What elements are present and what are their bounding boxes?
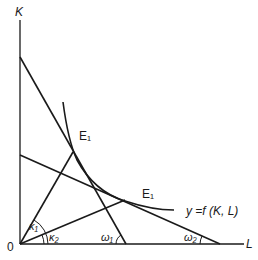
isoquant-label: y =f (K, L) [185, 204, 238, 218]
kappa2-label: κ₂ [49, 231, 60, 243]
k-axis-label: K [15, 5, 24, 19]
diagram-svg: K L 0 E₁ E₁ y =f (K, L) κ₁ κ₂ ω₁ ω₂ [0, 0, 258, 260]
origin-label: 0 [7, 240, 14, 254]
isoquant-curve [63, 102, 174, 210]
isoquant-diagram: K L 0 E₁ E₁ y =f (K, L) κ₁ κ₂ ω₁ ω₂ [0, 0, 258, 260]
arc-kappa2 [42, 235, 44, 244]
kappa1-label: κ₁ [29, 220, 39, 232]
omega2-label: ω₂ [184, 231, 198, 243]
arc-omega1 [116, 235, 121, 244]
point-e-upper-label: E₁ [79, 129, 91, 143]
arc-omega2 [200, 236, 202, 244]
point-e-lower-label: E₁ [142, 187, 154, 201]
omega1-label: ω₁ [101, 231, 114, 243]
ray-kappa1 [20, 152, 73, 244]
l-axis-label: L [246, 237, 253, 251]
